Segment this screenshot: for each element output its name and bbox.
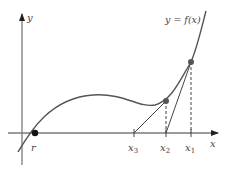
root-point bbox=[32, 130, 38, 136]
x-axis-label: x bbox=[210, 138, 216, 149]
x3-label: x3 bbox=[128, 142, 138, 155]
root-label: r bbox=[31, 142, 37, 153]
x2-label: x2 bbox=[160, 142, 170, 155]
point-x1 bbox=[188, 59, 194, 65]
y-axis-label: y bbox=[26, 12, 33, 23]
x1-label: x1 bbox=[185, 142, 195, 155]
tangent-at-x1 bbox=[166, 62, 191, 133]
curve-label: y = f(x) bbox=[164, 14, 201, 25]
newton-method-diagram: y x y = f(x) r x3 x2 x1 bbox=[0, 0, 225, 171]
point-x2 bbox=[163, 98, 169, 104]
function-curve bbox=[18, 11, 206, 152]
